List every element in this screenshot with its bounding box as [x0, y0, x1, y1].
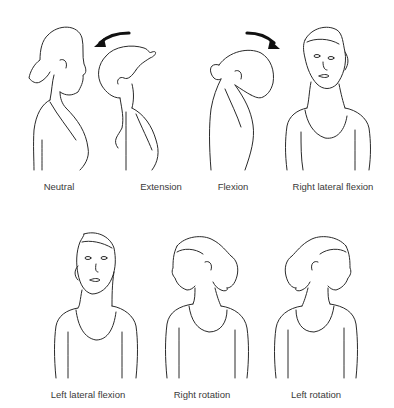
label-extension: Extension	[140, 181, 182, 192]
figure-right-rotation	[155, 232, 255, 378]
figure-neutral	[20, 20, 90, 170]
figure-right-lateral-flexion	[283, 22, 383, 170]
label-left-lateral-flexion: Left lateral flexion	[51, 389, 125, 400]
figure-left-lateral-flexion	[40, 228, 140, 378]
label-right-lateral-flexion: Right lateral flexion	[293, 181, 374, 192]
right-rotation-front-figure-illustration	[155, 232, 255, 378]
extension-side-figure-illustration	[92, 40, 192, 170]
label-flexion: Flexion	[218, 181, 249, 192]
flexion-side-figure-illustration	[205, 45, 285, 170]
figure-extension	[92, 40, 192, 170]
label-right-rotation: Right rotation	[174, 389, 231, 400]
label-neutral: Neutral	[44, 181, 75, 192]
figure-flexion	[205, 45, 285, 170]
label-left-rotation: Left rotation	[291, 389, 341, 400]
neutral-side-figure-illustration	[20, 20, 90, 170]
left-lateral-flexion-front-figure-illustration	[40, 228, 140, 378]
right-lateral-flexion-front-figure-illustration	[283, 22, 383, 170]
figure-left-rotation	[268, 232, 368, 378]
left-rotation-front-figure-illustration	[268, 232, 368, 378]
